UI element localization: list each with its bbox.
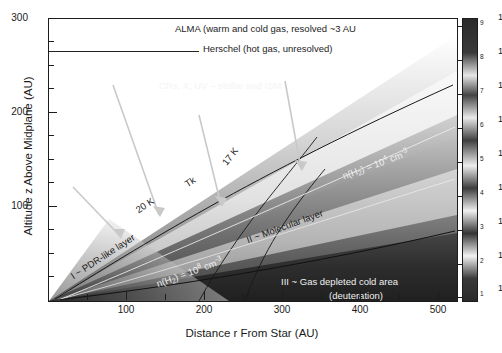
y-tick-label-200: 200 [11, 106, 28, 117]
colorbar-label-1: 101 [480, 290, 484, 302]
colorbar-label-2: 102 [480, 257, 484, 269]
y-axis-title: Altitude z Above Midplane (AU) [22, 36, 34, 276]
herschel-leader-line [49, 51, 199, 52]
colorbar-label-6: 106 [480, 121, 484, 133]
colorbar-label-3: 103 [480, 223, 484, 235]
x-tick-label-400: 400 [344, 304, 376, 315]
plot-area: ALMA (warm and cold gas, resolved ~3 AU … [48, 18, 458, 302]
colorbar-label-4: 104 [480, 189, 484, 201]
x-axis-title: Distance r From Star (AU) [48, 327, 456, 339]
x-tick-label-500: 500 [422, 304, 454, 315]
y-tick-label-300: 300 [11, 12, 28, 23]
colorbar-label-9: 109 [480, 19, 484, 31]
annotation-irradiation-sources: CRs, X, UV – stellar and ISM [159, 81, 281, 92]
annotation-herschel: Herschel (hot gas, unresolved) [203, 44, 332, 55]
annotation-region-iii-line2: (deuteration) [329, 291, 383, 302]
colorbar-label-8: 108 [480, 53, 484, 65]
x-tick-label-200: 200 [188, 304, 220, 315]
x-tick-label-100: 100 [110, 304, 142, 315]
colorbar [462, 18, 478, 302]
chart-figure: Altitude z Above Midplane (AU) [0, 0, 502, 353]
y-tick-label-100: 100 [11, 200, 28, 211]
colorbar-label-7: 107 [480, 87, 484, 99]
x-tick-label-300: 300 [266, 304, 298, 315]
annotation-alma: ALMA (warm and cold gas, resolved ~3 AU [175, 24, 356, 35]
colorbar-label-5: 105 [480, 155, 484, 167]
annotation-region-iii-line1: III ~ Gas depleted cold area [281, 277, 398, 288]
